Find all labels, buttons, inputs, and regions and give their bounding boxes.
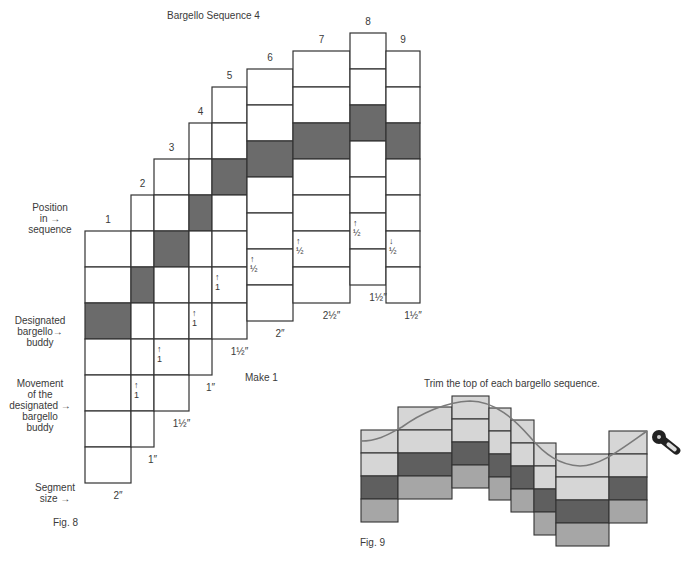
movement-indicator: ↑1 bbox=[215, 272, 220, 292]
designated-buddy-cell bbox=[154, 231, 189, 267]
segment-cell bbox=[85, 339, 131, 375]
label-line: in → bbox=[25, 213, 75, 224]
segment-cell bbox=[189, 339, 212, 375]
segment-cell bbox=[154, 375, 189, 411]
fig8-title: Bargello Sequence 4 bbox=[167, 10, 260, 21]
designated-buddy-cell bbox=[212, 159, 247, 195]
arrow-down-icon: ↓ bbox=[389, 236, 397, 246]
segment-cell bbox=[85, 411, 131, 447]
designated-buddy-cell bbox=[386, 123, 420, 159]
fabric-strip-dark bbox=[511, 466, 534, 489]
segment-cell bbox=[247, 285, 293, 321]
fabric-strip-light bbox=[556, 477, 609, 500]
column-number: 6 bbox=[247, 52, 293, 64]
segment-cell bbox=[386, 87, 420, 123]
label-line: designated → bbox=[8, 400, 72, 411]
fabric-strip-mid bbox=[361, 499, 398, 522]
fabric-strip-light bbox=[398, 430, 452, 453]
arrow-up-icon: ↑ bbox=[353, 218, 361, 228]
segment-size: 2½″ bbox=[312, 310, 352, 322]
movement-amount: 1 bbox=[157, 354, 162, 364]
fabric-strip-dark bbox=[452, 442, 489, 465]
column-number: 4 bbox=[189, 106, 212, 118]
column-number: 9 bbox=[386, 34, 420, 46]
fabric-strip-light bbox=[511, 420, 534, 443]
movement-amount: 1 bbox=[134, 390, 139, 400]
segment-cell bbox=[293, 159, 350, 195]
fabric-strip-mid bbox=[398, 476, 452, 499]
column-number: 1 bbox=[85, 214, 131, 226]
segment-cell bbox=[131, 303, 154, 339]
right-arrow-icon: → bbox=[61, 400, 71, 411]
arrow-up-icon: ↑ bbox=[215, 272, 220, 282]
label-line: Designated bbox=[8, 315, 72, 326]
fabric-strip-light bbox=[534, 443, 556, 466]
movement-indicator: ↑1 bbox=[192, 308, 197, 328]
segment-cell bbox=[350, 177, 386, 213]
fabric-strip-dark bbox=[398, 453, 452, 476]
designated-buddy-label: Designated bargello→ buddy bbox=[8, 315, 72, 348]
arrow-up-icon: ↑ bbox=[134, 380, 139, 390]
segment-size: 2″ bbox=[98, 490, 138, 502]
arrow-up-icon: ↑ bbox=[250, 254, 258, 264]
label-line: bargello bbox=[8, 411, 72, 422]
segment-cell bbox=[247, 177, 293, 213]
label-line: Movement bbox=[8, 378, 72, 389]
segment-cell bbox=[85, 375, 131, 411]
movement-amount: ½ bbox=[250, 264, 258, 274]
segment-size: 1″ bbox=[191, 382, 231, 394]
label-line: bargello→ bbox=[8, 326, 72, 337]
diagram-canvas bbox=[0, 0, 695, 562]
movement-label: Movement of the designated → bargello bu… bbox=[8, 378, 72, 433]
segment-cell bbox=[131, 195, 154, 231]
movement-indicator: ↑1 bbox=[157, 344, 162, 364]
segment-cell bbox=[293, 195, 350, 231]
column-number: 2 bbox=[131, 178, 154, 190]
segment-cell bbox=[350, 141, 386, 177]
segment-cell bbox=[154, 303, 189, 339]
fabric-strip-dark bbox=[489, 454, 511, 477]
segment-size: 1½″ bbox=[162, 418, 202, 430]
label-line: buddy bbox=[8, 422, 72, 433]
segment-size: 1½″ bbox=[358, 292, 398, 304]
designated-buddy-cell bbox=[293, 123, 350, 159]
segment-cell bbox=[212, 231, 247, 267]
segment-cell bbox=[247, 69, 293, 105]
segment-cell bbox=[386, 51, 420, 87]
segment-size-label: Segment size → bbox=[30, 482, 80, 504]
segment-size: 2″ bbox=[260, 328, 300, 340]
fabric-strip-light bbox=[489, 431, 511, 454]
fabric-strip-light bbox=[452, 396, 489, 419]
segment-cell bbox=[154, 267, 189, 303]
label-line: Position bbox=[25, 202, 75, 213]
segment-cell bbox=[189, 231, 212, 267]
movement-amount: 1 bbox=[215, 282, 220, 292]
segment-cell bbox=[154, 195, 189, 231]
segment-cell bbox=[293, 51, 350, 87]
position-in-sequence-label: Position in → sequence bbox=[25, 202, 75, 235]
arrow-up-icon: ↑ bbox=[296, 236, 304, 246]
fabric-strip-light bbox=[398, 407, 452, 430]
fabric-strip-light bbox=[534, 466, 556, 489]
fabric-strip-dark bbox=[361, 476, 398, 499]
arrow-up-icon: ↑ bbox=[192, 308, 197, 318]
segment-cell bbox=[189, 159, 212, 195]
column-number: 8 bbox=[350, 16, 386, 28]
segment-cell bbox=[85, 231, 131, 267]
label-line: buddy bbox=[8, 337, 72, 348]
right-arrow-icon: → bbox=[53, 326, 63, 337]
segment-cell bbox=[350, 33, 386, 69]
fabric-strip-mid bbox=[534, 512, 556, 535]
segment-cell bbox=[131, 231, 154, 267]
column-number: 5 bbox=[212, 70, 247, 82]
label-line: Segment bbox=[30, 482, 80, 493]
segment-cell bbox=[212, 87, 247, 123]
segment-cell bbox=[189, 123, 212, 159]
segment-cell bbox=[85, 267, 131, 303]
segment-cell bbox=[212, 195, 247, 231]
designated-buddy-cell bbox=[247, 141, 293, 177]
column-number: 3 bbox=[154, 142, 189, 154]
make-count-label: Make 1 bbox=[245, 372, 278, 384]
fig9-title: Trim the top of each bargello sequence. bbox=[424, 378, 600, 389]
fabric-strip-dark bbox=[609, 477, 647, 500]
